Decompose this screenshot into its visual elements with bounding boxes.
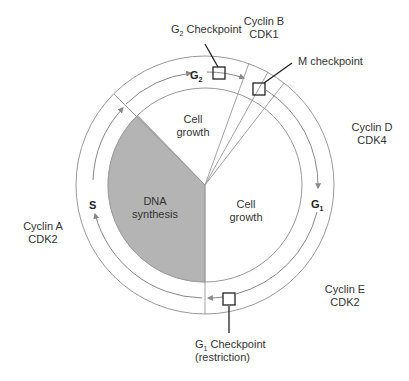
g1-checkpoint-label: G1 Checkpoint(restriction) (195, 338, 266, 363)
cell-cycle-diagram: S G2 G1 Cellgrowth Cellgrowth DNAsynthes… (0, 0, 409, 381)
g2-checkpoint-label: G2 Checkpoint (171, 23, 242, 37)
diagram-canvas: S G2 G1 Cellgrowth Cellgrowth DNAsynthes… (0, 0, 409, 381)
cyclin-a-label: Cyclin ACDK2 (23, 220, 63, 245)
cyclin-b-label: Cyclin BCDK1 (244, 15, 284, 40)
cyclin-d-label: Cyclin DCDK4 (352, 121, 393, 146)
m-checkpoint-label: M checkpoint (298, 55, 363, 67)
cyclin-e-label: Cyclin ECDK2 (325, 283, 365, 308)
phase-s-label: S (89, 199, 96, 211)
